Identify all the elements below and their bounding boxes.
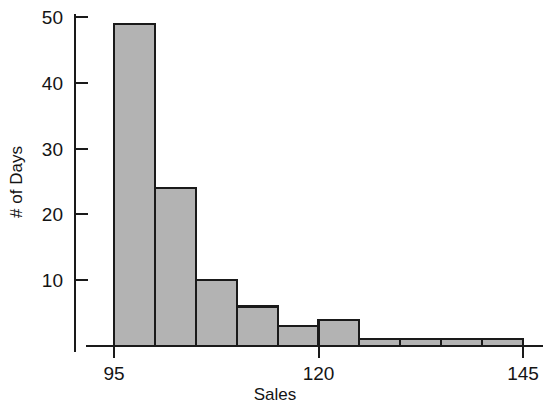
x-axis-tick-label: 120 [303,363,335,384]
x-axis-tick-label: 95 [103,363,124,384]
y-axis-tick-label: 50 [42,7,63,28]
histogram-bar [237,307,278,346]
y-axis-title: # of Days [7,146,26,218]
x-axis-tick-label: 145 [507,363,539,384]
histogram-chart: 1020304050 95120145 Sales # of Days [0,0,550,407]
histogram-bar [319,320,360,346]
histogram-bar [196,280,237,346]
y-axis-tick-label: 10 [42,270,63,291]
y-axis-tick-label: 30 [42,139,63,160]
y-axis-tick-label: 20 [42,204,63,225]
histogram-bar [278,326,319,346]
x-axis-title: Sales [254,385,297,404]
histogram-bar [155,188,196,346]
chart-canvas: 1020304050 95120145 Sales # of Days [0,0,550,407]
histogram-bar [114,24,155,346]
y-axis-tick-label: 40 [42,73,63,94]
